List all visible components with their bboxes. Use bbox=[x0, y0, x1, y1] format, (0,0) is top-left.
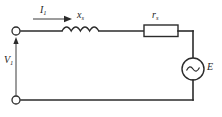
voltage-arrow-head-icon bbox=[13, 37, 18, 44]
current-arrow-head-icon bbox=[64, 16, 72, 22]
terminal-top-icon bbox=[12, 27, 20, 35]
current-label: I1 bbox=[40, 5, 47, 15]
resistor-icon bbox=[144, 25, 178, 37]
inductor-icon bbox=[62, 27, 99, 31]
circuit-diagram: I1 xs rs V1 E bbox=[0, 0, 222, 117]
reactance-label: xs bbox=[77, 10, 84, 20]
terminal-bottom-icon bbox=[12, 96, 20, 104]
circuit-schematic-svg bbox=[0, 0, 222, 117]
resistance-label: rs bbox=[152, 10, 158, 20]
source-emf-label: E bbox=[207, 62, 213, 72]
terminal-voltage-label: V1 bbox=[4, 55, 13, 65]
